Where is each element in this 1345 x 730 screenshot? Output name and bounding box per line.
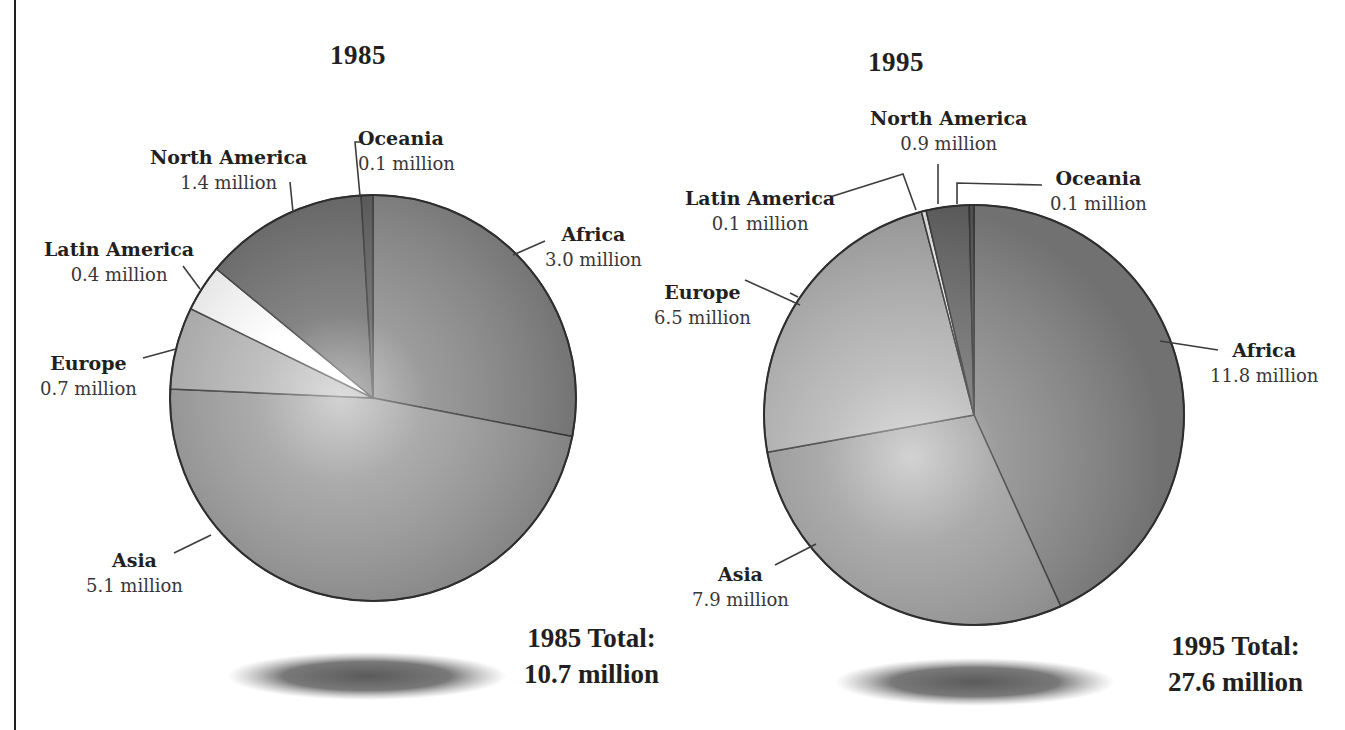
label-name: Africa [1210, 338, 1318, 363]
label-name: North America [150, 145, 307, 170]
leader-africa-1985 [513, 241, 545, 255]
label-name: Oceania [358, 126, 455, 151]
label-value: 0.1 million [685, 211, 835, 236]
globe-shading [764, 205, 1184, 625]
total-label-1995: 1995 Total: [1168, 628, 1303, 664]
pie-title-1995: 1995 [868, 47, 924, 78]
leader-europe-1995 [745, 280, 800, 305]
label-value: 6.5 million [654, 305, 751, 330]
label-name: Asia [692, 562, 789, 587]
leader-europe-1985 [143, 349, 176, 358]
label-value: 5.1 million [86, 573, 183, 598]
label-value: 3.0 million [545, 247, 642, 272]
pie-shadow-1995 [835, 658, 1115, 706]
label-africa-1995: Africa 11.8 million [1210, 338, 1318, 388]
pie-1985 [170, 195, 576, 601]
label-africa-1985: Africa 3.0 million [545, 222, 642, 272]
total-1995: 1995 Total: 27.6 million [1168, 628, 1303, 700]
label-name: Africa [545, 222, 642, 247]
label-europe-1985: Europe 0.7 million [40, 351, 137, 401]
pie-1995 [764, 205, 1184, 625]
total-1985: 1985 Total: 10.7 million [524, 620, 659, 692]
label-value: 0.7 million [40, 376, 137, 401]
label-value: 0.1 million [358, 151, 455, 176]
total-label-1985: 1985 Total: [524, 620, 659, 656]
label-name: Europe [40, 351, 137, 376]
label-asia-1995: Asia 7.9 million [692, 562, 789, 612]
label-latin-america-1985: Latin America 0.4 million [44, 237, 194, 287]
label-oceania-1995: Oceania 0.1 million [1050, 166, 1147, 216]
label-value: 1.4 million [150, 170, 307, 195]
label-north-america-1985: North America 1.4 million [150, 145, 307, 195]
label-value: 11.8 million [1210, 363, 1318, 388]
label-name: Latin America [685, 186, 835, 211]
pie-shadow-1985 [227, 652, 507, 700]
label-value: 7.9 million [692, 587, 789, 612]
total-value-1995: 27.6 million [1168, 664, 1303, 700]
leader-oceania-1995 [957, 183, 1042, 204]
label-name: Oceania [1050, 166, 1147, 191]
label-oceania-1985: Oceania 0.1 million [358, 126, 455, 176]
leader-europe-1995-pre [790, 293, 798, 297]
label-name: Asia [86, 548, 183, 573]
label-name: Europe [654, 280, 751, 305]
pie-charts-canvas [0, 0, 1345, 730]
pie-title-1985: 1985 [330, 40, 386, 71]
globe-shading [170, 195, 576, 601]
leader-latin-america-1995 [830, 174, 916, 210]
total-value-1985: 10.7 million [524, 656, 659, 692]
label-name: Latin America [44, 237, 194, 262]
label-value: 0.9 million [870, 131, 1027, 156]
label-value: 0.4 million [44, 262, 194, 287]
label-latin-america-1995: Latin America 0.1 million [685, 186, 835, 236]
label-asia-1985: Asia 5.1 million [86, 548, 183, 598]
label-north-america-1995: North America 0.9 million [870, 106, 1027, 156]
label-europe-1995: Europe 6.5 million [654, 280, 751, 330]
label-value: 0.1 million [1050, 191, 1147, 216]
label-name: North America [870, 106, 1027, 131]
